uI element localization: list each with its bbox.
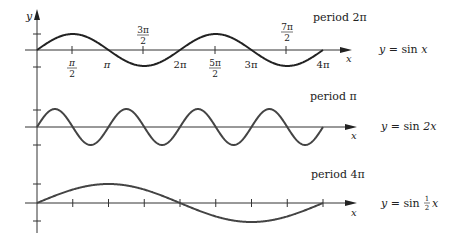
tick-three-pi: 3π — [245, 59, 258, 70]
tick-five-pi-half-num: 5π — [209, 58, 221, 68]
tick-pi-half-num: π — [68, 58, 76, 68]
tick-pi: π — [103, 59, 111, 70]
graph-sin-2x: x period π y = sin 2x — [25, 90, 437, 145]
equation-3: y = sin — [380, 197, 420, 210]
x-axis-3-label: x — [351, 207, 357, 218]
y-axis-arrow-icon — [34, 9, 40, 20]
tick-two-pi: 2π — [174, 59, 187, 70]
tick-seven-pi-half-den: 2 — [284, 33, 290, 43]
tick-three-pi-half-num: 3π — [137, 25, 149, 35]
tick-four-pi: 4π — [317, 59, 330, 70]
graph-sin-x: x π 2 π 3π 2 2π 5π 2 3π 7π 2 4π period 2… — [25, 11, 428, 79]
x-axis-1-label: x — [346, 53, 352, 64]
period-label-1: period 2π — [313, 11, 367, 24]
eq3-frac-num: 1 — [425, 195, 429, 203]
eq3-frac-den: 2 — [425, 204, 429, 212]
sine-graphs-figure: y x π 2 π 3π 2 2π 5π 2 3π 7π 2 4π — [0, 0, 457, 241]
eq3-var: x — [432, 197, 439, 210]
x-axis-3-arrow-icon — [345, 200, 357, 206]
x-axis-2-label: x — [351, 130, 357, 141]
tick-pi-half-den: 2 — [69, 69, 75, 79]
tick-seven-pi-half-num: 7π — [281, 22, 293, 32]
period-label-2: period π — [310, 90, 357, 103]
y-axis-label: y — [25, 10, 33, 23]
tick-five-pi-half-den: 2 — [212, 69, 218, 79]
equation-2: y = sin 2x — [380, 120, 437, 133]
tick-three-pi-half-den: 2 — [140, 36, 146, 46]
period-label-3: period 4π — [311, 168, 365, 181]
equation-1: y = sin x — [378, 43, 428, 56]
graph-sin-half-x: x period 4π y = sin 1 2 x — [25, 168, 439, 222]
